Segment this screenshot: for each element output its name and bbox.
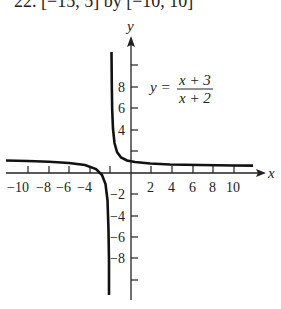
equation-lhs: y = (148, 79, 171, 95)
x-tick-label: −6 (56, 180, 71, 195)
equation-numerator: x + 3 (178, 72, 211, 88)
y-tick-label: −2 (110, 187, 125, 202)
x-tick-label: 6 (189, 180, 196, 195)
y-tick-label: 4 (118, 123, 125, 138)
curve-right-branch (112, 52, 254, 166)
x-tick-label: 8 (209, 180, 216, 195)
y-tick-label: −8 (110, 251, 125, 266)
equation-denominator: x + 2 (178, 90, 211, 106)
x-tick-label: 2 (147, 180, 154, 195)
axes (6, 40, 262, 300)
x-tick-label: 10 (226, 180, 240, 195)
x-tick-label: 4 (168, 180, 175, 195)
y-tick-label: 6 (118, 101, 125, 116)
graph: −10 −8 −6 −4 2 4 6 8 10 8 6 4 −2 −4 −6 −… (0, 0, 281, 309)
x-tick-label: −8 (36, 180, 51, 195)
x-axis-label: x (267, 165, 275, 181)
y-axis-label: y (125, 18, 134, 34)
x-tick-label: −10 (7, 180, 29, 195)
y-tick-label: 8 (118, 80, 125, 95)
y-tick-label: −4 (110, 209, 125, 224)
y-tick-label: −6 (110, 230, 125, 245)
x-tick-label: −4 (77, 180, 92, 195)
